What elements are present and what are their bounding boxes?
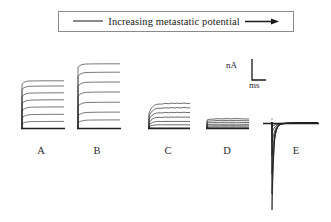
panel-letter-b: B [89,145,105,156]
panel-letter-a: A [33,145,49,156]
metastatic-potential-banner: Increasing metastatic potential [58,11,294,32]
banner-content: Increasing metastatic potential [73,16,278,27]
panel-letter-c: C [160,145,176,156]
trace-group-a [20,80,66,130]
figure-canvas: Increasing metastatic potential nA ms [0,0,331,222]
panel-letter-e: E [288,145,304,156]
trace-group-b [76,63,122,130]
trace-group-e [262,116,320,216]
trace-group-d [205,117,250,130]
right-arrow-icon [245,17,279,25]
banner-label: Increasing metastatic potential [108,16,239,27]
trace-group-c [147,101,191,130]
scale-bar: nA ms [226,56,272,92]
horizontal-line-icon [73,21,103,22]
panel-letter-d: D [219,145,235,156]
